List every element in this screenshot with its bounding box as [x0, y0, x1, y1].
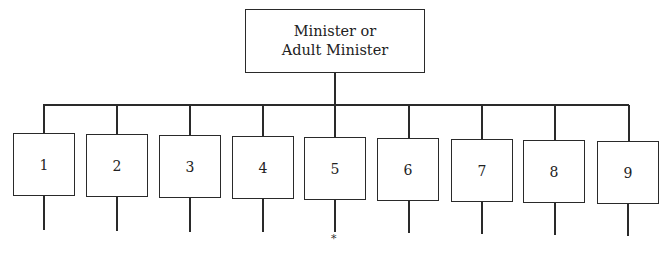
unit-6-tail-connector: [408, 201, 410, 233]
unit-3-tail-connector: [189, 198, 191, 232]
unit-4-tail-connector: [262, 199, 264, 232]
unit-label: 5: [331, 161, 340, 177]
unit-7-drop-connector: [481, 105, 483, 139]
unit-label: 3: [186, 159, 195, 175]
unit-box-2: 2: [86, 134, 148, 197]
unit-5-footnote-marker: *: [331, 232, 337, 245]
unit-label: 1: [40, 157, 49, 173]
unit-box-1: 1: [13, 133, 75, 196]
unit-1-tail-connector: [43, 196, 45, 230]
root-label-line2: Adult Minister: [282, 41, 388, 60]
unit-box-9: 9: [597, 141, 659, 204]
unit-8-tail-connector: [554, 203, 556, 235]
unit-7-tail-connector: [481, 202, 483, 234]
unit-box-8: 8: [523, 140, 585, 203]
unit-8-drop-connector: [554, 105, 556, 140]
unit-box-7: 7: [451, 139, 513, 202]
unit-label: 9: [624, 165, 633, 181]
unit-5-drop-connector: [334, 104, 336, 137]
unit-label: 7: [478, 163, 487, 179]
unit-9-drop-connector: [628, 105, 630, 141]
unit-box-3: 3: [159, 135, 221, 198]
unit-label: 4: [259, 160, 268, 176]
root-label-line1: Minister or: [294, 22, 377, 41]
unit-1-drop-connector: [43, 104, 45, 133]
unit-box-6: 6: [377, 138, 439, 201]
root-stem-connector: [334, 73, 336, 105]
unit-label: 2: [113, 158, 122, 174]
unit-box-5: 5: [304, 137, 366, 200]
unit-label: 6: [404, 162, 413, 178]
horizontal-bus-connector: [43, 104, 629, 106]
unit-9-tail-connector: [627, 204, 629, 236]
unit-2-tail-connector: [116, 197, 118, 231]
unit-3-drop-connector: [189, 104, 191, 135]
root-minister-box: Minister or Adult Minister: [245, 9, 425, 73]
unit-5-tail-connector: [334, 200, 336, 232]
unit-6-drop-connector: [408, 104, 410, 138]
unit-box-4: 4: [232, 136, 294, 199]
unit-4-drop-connector: [262, 104, 264, 136]
unit-label: 8: [550, 164, 559, 180]
unit-2-drop-connector: [116, 104, 118, 134]
